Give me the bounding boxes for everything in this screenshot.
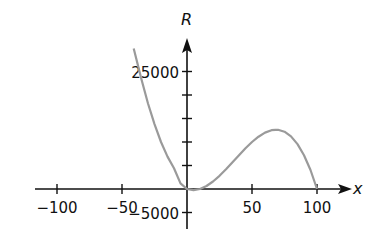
chart: x R −100−5050100 25000−5000 bbox=[0, 0, 373, 229]
x-axis-label: x bbox=[352, 179, 363, 198]
y-tick-label: −5000 bbox=[128, 205, 179, 223]
x-tick-label: −100 bbox=[36, 199, 77, 217]
x-tick-label: 50 bbox=[242, 199, 261, 217]
y-axis-label: R bbox=[181, 10, 192, 29]
x-tick-label: 100 bbox=[303, 199, 332, 217]
